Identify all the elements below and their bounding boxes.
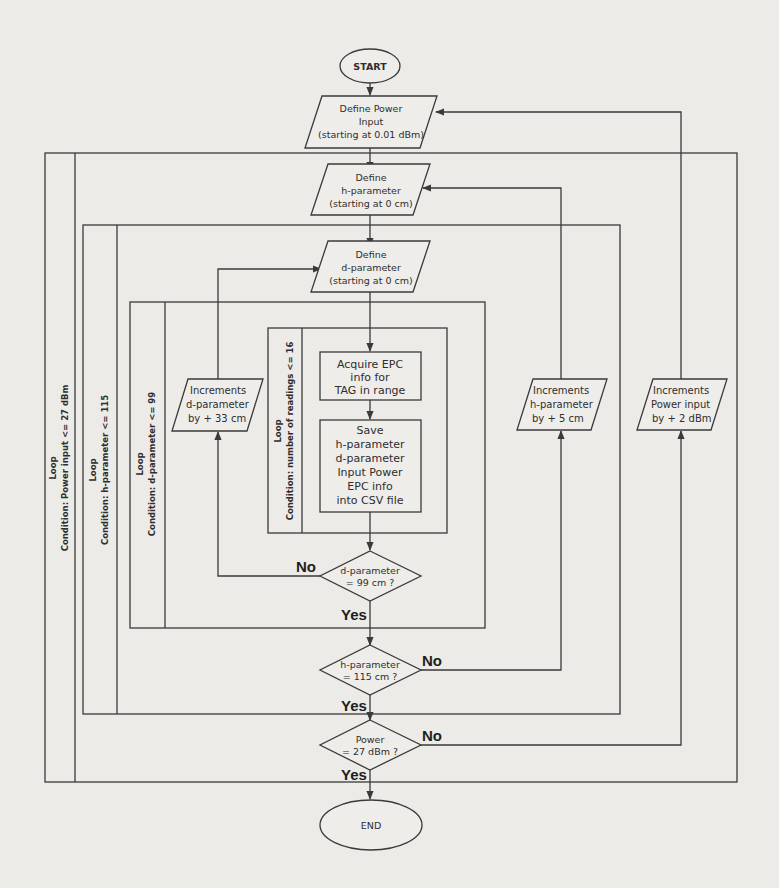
define-d-parameter: Define d-parameter (starting at 0 cm) xyxy=(311,241,430,292)
decision-h-parameter: h-parameter = 115 cm ? xyxy=(320,645,421,695)
save-line4: Input Power xyxy=(337,466,403,479)
decision-h-no-label: No xyxy=(422,652,442,669)
increment-power-input: Increments Power input by + 2 dBm xyxy=(637,379,727,430)
start-terminal: START xyxy=(340,49,400,83)
acquire-line1: Acquire EPC xyxy=(337,358,404,371)
define-d-line1: Define xyxy=(355,249,386,260)
save-line6: into CSV file xyxy=(336,494,403,507)
define-power-line3: (starting at 0.01 dBm) xyxy=(318,129,424,140)
inc-h-line1: Increments xyxy=(533,385,589,396)
save-line2: h-parameter xyxy=(335,438,404,451)
decision-power-no-label: No xyxy=(422,727,442,744)
define-d-line2: d-parameter xyxy=(341,262,401,273)
decision-h-yes-label: Yes xyxy=(341,697,367,714)
decision-power-line2: = 27 dBm ? xyxy=(342,746,398,757)
inc-d-line3: by + 33 cm xyxy=(188,413,246,424)
flowchart-canvas: Loop Condition: Power input <= 27 dBm Lo… xyxy=(0,0,779,888)
decision-d-yes-label: Yes xyxy=(341,606,367,623)
decision-d-line1: d-parameter xyxy=(340,565,400,576)
decision-power: Power = 27 dBm ? xyxy=(320,720,421,770)
inc-power-line2: Power input xyxy=(651,399,710,410)
acquire-line2: info for xyxy=(350,371,390,384)
define-power-line1: Define Power xyxy=(340,103,403,114)
loop-d-condition: Condition: d-parameter <= 99 xyxy=(147,392,157,536)
loop-readings-condition: Condition: number of readings <= 16 xyxy=(285,342,295,521)
increment-d-parameter: Increments d-parameter by + 33 cm xyxy=(172,379,263,431)
loop-h-condition: Condition: h-parameter <= 115 xyxy=(100,395,110,545)
increment-h-parameter: Increments h-parameter by + 5 cm xyxy=(517,379,607,430)
decision-d-line2: = 99 cm ? xyxy=(346,577,395,588)
loop-h-title: Loop xyxy=(88,458,98,481)
inc-d-line1: Increments xyxy=(190,385,246,396)
decision-d-parameter: d-parameter = 99 cm ? xyxy=(320,551,421,601)
end-label: END xyxy=(361,820,381,831)
save-line5: EPC info xyxy=(347,480,393,493)
decision-h-line2: = 115 cm ? xyxy=(343,671,398,682)
acquire-line3: TAG in range xyxy=(334,384,406,397)
acquire-epc-process: Acquire EPC info for TAG in range xyxy=(320,352,421,400)
define-power-input: Define Power Input (starting at 0.01 dBm… xyxy=(305,96,437,148)
define-h-line3: (starting at 0 cm) xyxy=(329,198,412,209)
inc-h-line2: h-parameter xyxy=(530,399,594,410)
define-h-line1: Define xyxy=(355,172,386,183)
decision-power-line1: Power xyxy=(356,734,385,745)
save-line1: Save xyxy=(356,424,383,437)
inc-d-line2: d-parameter xyxy=(186,399,250,410)
loop-readings-title: Loop xyxy=(273,419,283,442)
save-line3: d-parameter xyxy=(335,452,405,465)
inc-h-line3: by + 5 cm xyxy=(532,413,584,424)
define-h-line2: h-parameter xyxy=(341,185,401,196)
inc-power-line1: Increments xyxy=(653,385,709,396)
decision-d-no-label: No xyxy=(296,558,316,575)
loop-d: Loop Condition: d-parameter <= 99 xyxy=(130,302,485,628)
loop-power-title: Loop xyxy=(48,456,58,479)
save-csv-process: Save h-parameter d-parameter Input Power… xyxy=(320,420,421,512)
decision-h-line1: h-parameter xyxy=(340,659,400,670)
decision-power-yes-label: Yes xyxy=(341,766,367,783)
inc-power-line3: by + 2 dBm xyxy=(652,413,712,424)
define-power-line2: Input xyxy=(359,116,384,127)
define-h-parameter: Define h-parameter (starting at 0 cm) xyxy=(311,164,430,215)
start-label: START xyxy=(353,61,387,72)
loop-d-title: Loop xyxy=(135,452,145,475)
loop-power-condition: Condition: Power input <= 27 dBm xyxy=(60,384,70,551)
end-terminal: END xyxy=(320,800,422,850)
define-d-line3: (starting at 0 cm) xyxy=(329,275,412,286)
